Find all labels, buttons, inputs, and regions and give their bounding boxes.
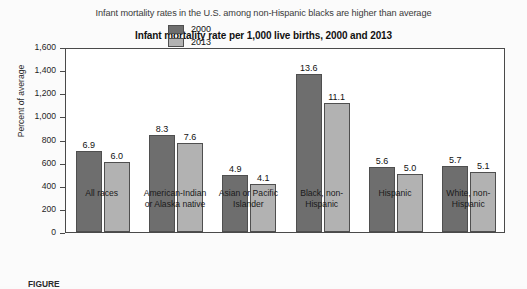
- bar-value-label: 7.6: [184, 132, 197, 142]
- bar-value-label: 11.1: [328, 92, 345, 102]
- bar-value-label: 6.0: [110, 151, 123, 161]
- bar-2000[interactable]: 5.6: [369, 167, 395, 232]
- y-axis-tick-label: 1,600: [34, 42, 56, 52]
- bar-2013[interactable]: 5.0: [397, 174, 423, 232]
- chart-legend: 2000 2013: [168, 24, 211, 50]
- figure-caption: FIGURE: [28, 279, 498, 289]
- chart-title: Infant mortality rate per 1,000 live bir…: [0, 30, 527, 41]
- bar-value-label: 4.1: [257, 173, 270, 183]
- y-axis-tick-label: 200: [42, 204, 56, 214]
- bar-value-label: 5.6: [376, 156, 389, 166]
- bar-value-label: 4.9: [229, 164, 242, 174]
- y-axis-tick-label: 400: [42, 181, 56, 191]
- y-axis-label: Percent of average: [16, 36, 26, 166]
- legend-item-2013[interactable]: 2013: [168, 37, 211, 47]
- bar-value-label: 8.3: [156, 124, 169, 134]
- y-axis-tick-label: 1,400: [34, 65, 56, 75]
- bar-2013[interactable]: 11.1: [324, 103, 350, 232]
- y-axis-tick-label: 1,200: [34, 88, 56, 98]
- bar-value-label: 5.7: [449, 155, 462, 165]
- bar-value-label: 6.9: [82, 140, 95, 150]
- bar-2000[interactable]: 8.3: [149, 135, 175, 232]
- bar-group: 5.65.0: [369, 49, 423, 232]
- y-axis-tick-label: 1,000: [34, 111, 56, 121]
- bar-value-label: 5.0: [404, 163, 417, 173]
- legend-label-2013: 2013: [191, 37, 211, 47]
- y-axis-tick-label: 0: [51, 227, 56, 237]
- bar-value-label: 5.1: [477, 161, 490, 171]
- x-axis-category-label: American-Indian or Alaska native: [138, 188, 211, 209]
- x-axis-category-label: Asian or Pacific Islander: [212, 188, 285, 209]
- y-axis-tick-label: 600: [42, 158, 56, 168]
- y-axis-tick-label: 800: [42, 135, 56, 145]
- legend-swatch-icon-2000: [168, 25, 184, 34]
- figure-headline: Infant mortality rates in the U.S. among…: [0, 8, 527, 18]
- x-axis-category-label: Black, non- Hispanic: [285, 188, 358, 209]
- bar-value-label: 13.6: [300, 63, 318, 73]
- bar-group: 6.96.0: [76, 49, 130, 232]
- x-axis-category-label: Hispanic: [358, 188, 431, 199]
- x-axis-category-label: All races: [65, 188, 138, 199]
- y-axis-tick-mark: [60, 233, 65, 234]
- legend-item-2000[interactable]: 2000: [168, 24, 211, 34]
- legend-swatch-icon-2013: [168, 38, 184, 47]
- x-axis-category-label: White, non- Hispanic: [432, 188, 505, 209]
- legend-label-2000: 2000: [191, 24, 211, 34]
